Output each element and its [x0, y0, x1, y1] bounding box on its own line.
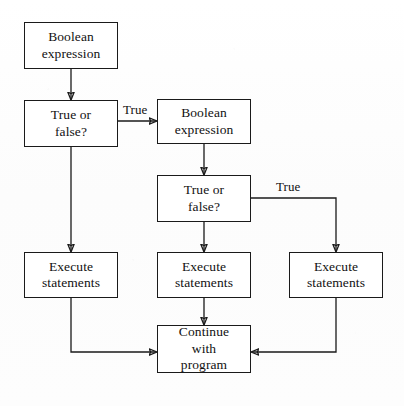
node-execute-statements-middle[interactable]: Execute statements: [157, 252, 251, 298]
edge-execute-left-to-continue: [71, 298, 157, 352]
node-boolean-expression-2[interactable]: Boolean expression: [157, 99, 251, 144]
node-boolean-expression-1[interactable]: Boolean expression: [24, 22, 118, 69]
edge-execute-right-to-continue: [252, 298, 337, 352]
flowchart-canvas: Boolean expression True or false? Boolea…: [0, 0, 404, 406]
node-execute-statements-left[interactable]: Execute statements: [24, 252, 118, 298]
edge-label-true-1: True: [123, 103, 147, 116]
node-true-or-false-2[interactable]: True or false?: [157, 175, 251, 222]
node-label: Boolean expression: [39, 29, 104, 62]
node-label: True or false?: [181, 182, 227, 215]
node-label: Execute statements: [172, 259, 236, 292]
edge-decision2-true-to-execute-right: [251, 198, 336, 252]
node-label: Execute statements: [304, 259, 368, 292]
node-execute-statements-right[interactable]: Execute statements: [289, 252, 383, 298]
node-label: Execute statements: [39, 259, 103, 292]
edge-label-true-2: True: [276, 180, 300, 193]
node-label: True or false?: [48, 107, 94, 140]
node-continue-with-program[interactable]: Continue with program: [157, 325, 251, 373]
node-label: Continue with program: [176, 324, 232, 373]
node-true-or-false-1[interactable]: True or false?: [24, 100, 118, 147]
node-label: Boolean expression: [172, 105, 237, 138]
